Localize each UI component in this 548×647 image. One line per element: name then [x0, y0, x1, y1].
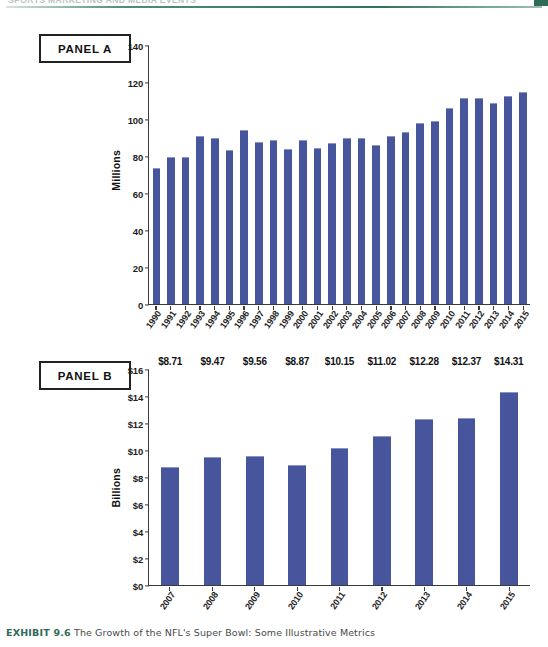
- x-axis-tick-label: 2013: [413, 590, 432, 611]
- y-axis-tick-mark: [145, 396, 149, 397]
- x-axis-tick-label: 2008: [201, 590, 220, 611]
- panel-b-bar-group: $8.71$9.47$9.56$8.87$10.15$11.02$12.28$1…: [149, 370, 530, 585]
- x-axis-tick-label: 2010: [285, 590, 304, 611]
- bar-slot: $8.71: [149, 370, 191, 585]
- bar-slot: $14.31: [488, 370, 530, 585]
- bar-slot: $12.37: [445, 370, 487, 585]
- x-axis-tick-label: 2007: [158, 590, 177, 611]
- x-axis-tick-label: 2014: [455, 590, 474, 611]
- y-axis-tick-mark: [145, 450, 149, 451]
- bar-value-label: $8.71: [158, 356, 182, 367]
- bar-value-label: $10.15: [325, 356, 354, 367]
- bar-slot: $12.28: [403, 370, 445, 585]
- exhibit-caption: EXHIBIT 9.6 The Growth of the NFL's Supe…: [6, 627, 526, 638]
- y-axis-tick-mark: [145, 558, 149, 559]
- bar: $12.28: [415, 419, 433, 585]
- x-axis-tick-label: 2009: [243, 590, 262, 611]
- bar-value-label: $8.87: [285, 356, 309, 367]
- bar-value-label: $14.31: [494, 356, 523, 367]
- y-axis-tick-mark: [145, 423, 149, 424]
- y-axis-tick-mark: [145, 585, 149, 586]
- bar-slot: $9.56: [234, 370, 276, 585]
- bar-value-label: $9.56: [243, 356, 267, 367]
- y-axis-tick-mark: [145, 369, 149, 370]
- y-axis-tick-mark: [145, 504, 149, 505]
- y-axis-tick-mark: [145, 531, 149, 532]
- bar-value-label: $9.47: [200, 356, 224, 367]
- x-axis-tick-label: 2011: [328, 590, 347, 611]
- bar: $11.02: [373, 436, 391, 585]
- bar: $10.15: [331, 448, 349, 585]
- bar: $9.47: [204, 457, 222, 585]
- exhibit-caption-label: EXHIBIT 9.6: [6, 627, 71, 638]
- bar-value-label: $11.02: [367, 356, 396, 367]
- panel-b-chart: Billions $8.71$9.47$9.56$8.87$10.15$11.0…: [0, 0, 548, 647]
- exhibit-caption-text: The Growth of the NFL's Super Bowl: Some…: [74, 627, 375, 638]
- bar: $12.37: [458, 418, 476, 585]
- bar: $8.71: [161, 467, 179, 585]
- bar-value-label: $12.37: [452, 356, 481, 367]
- bar-slot: $9.47: [191, 370, 233, 585]
- y-axis-tick-mark: [145, 477, 149, 478]
- bar-slot: $10.15: [318, 370, 360, 585]
- panel-b-plot-area: $8.71$9.47$9.56$8.87$10.15$11.02$12.28$1…: [148, 370, 530, 586]
- bar-value-label: $12.28: [409, 356, 438, 367]
- bar: $8.87: [288, 465, 306, 585]
- x-axis-tick-label: 2012: [370, 590, 389, 611]
- bar-slot: $11.02: [361, 370, 403, 585]
- bar: $9.56: [246, 456, 264, 585]
- bar-slot: $8.87: [276, 370, 318, 585]
- panel-b-y-axis-title: Billions: [110, 468, 122, 508]
- x-axis-tick-label: 2015: [498, 590, 517, 611]
- bar: $14.31: [500, 392, 518, 585]
